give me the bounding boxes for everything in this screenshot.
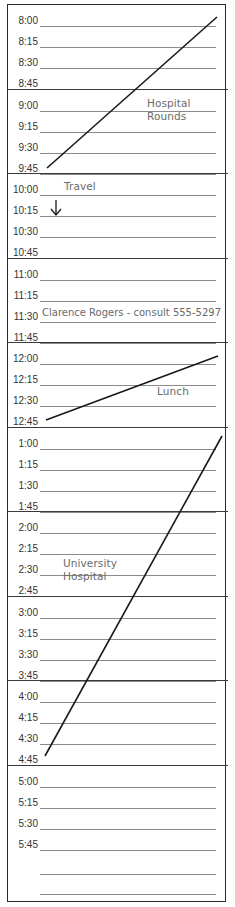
time-slot-label: 9:30 [4,142,38,154]
hour-divider [7,89,228,90]
time-slot-line[interactable] [40,850,216,851]
time-slot-line[interactable] [40,618,216,619]
time-slot-line[interactable] [40,47,216,48]
time-slot-line[interactable] [40,787,216,788]
time-slot-label: 10:30 [4,226,38,238]
hour-divider [7,765,228,766]
entry-university-hospital-line1[interactable]: University [63,557,117,569]
time-slot-label: 4:30 [4,733,38,745]
time-slot-line[interactable] [40,132,216,133]
time-slot-label: 2:30 [4,564,38,576]
time-slot-line[interactable] [40,26,216,27]
time-slot-label: 10:15 [4,205,38,217]
time-slot-line[interactable] [40,153,216,154]
entry-university-hospital-line2[interactable]: Hospital [63,570,107,582]
time-slot-line[interactable] [40,301,216,302]
entry-hospital-rounds-line2[interactable]: Rounds [147,110,186,122]
time-slot-line[interactable] [40,406,216,407]
time-slot-line[interactable] [40,660,216,661]
time-slot-line[interactable] [40,322,216,323]
time-slot-label: 8:30 [4,57,38,69]
hour-divider [7,511,228,512]
time-slot-label: 12:00 [4,353,38,365]
time-slot-label: 8:00 [4,15,38,27]
time-slot-label: 5:15 [4,797,38,809]
time-slot-label: 12:15 [4,374,38,386]
entry-lunch[interactable]: Lunch [157,385,189,397]
time-slot-line[interactable] [40,385,216,386]
entry-travel[interactable]: Travel [64,180,96,192]
time-slot-line[interactable] [40,237,216,238]
time-slot-line[interactable] [40,554,216,555]
time-slot-label: 9:15 [4,121,38,133]
blank-note-line[interactable] [40,874,216,875]
time-slot-line[interactable] [40,195,216,196]
time-slot-line[interactable] [40,216,216,217]
time-slot-line[interactable] [40,829,216,830]
time-slot-label: 2:00 [4,522,38,534]
entry-hospital-rounds-line1[interactable]: Hospital [147,97,191,109]
time-slot-line[interactable] [40,723,216,724]
time-slot-label: 8:15 [4,36,38,48]
time-slot-line[interactable] [40,744,216,745]
time-slot-line[interactable] [40,702,216,703]
time-slot-label: 5:30 [4,818,38,830]
time-slot-line[interactable] [40,364,216,365]
hour-divider [7,680,228,681]
time-slot-line[interactable] [40,808,216,809]
hour-divider [7,173,228,174]
time-slot-line[interactable] [40,533,216,534]
time-slot-label: 3:15 [4,628,38,640]
time-slot-label: 9:00 [4,100,38,112]
hour-divider [7,427,228,428]
day-planner-sheet [7,4,226,902]
time-slot-label: 12:30 [4,395,38,407]
time-slot-line[interactable] [40,639,216,640]
time-slot-label: 5:45 [4,839,38,851]
time-slot-label: 11:00 [4,269,38,281]
time-slot-label: 11:30 [4,311,38,323]
hour-divider [7,258,228,259]
hour-divider [7,342,228,343]
time-slot-line[interactable] [40,68,216,69]
time-slot-line[interactable] [40,111,216,112]
time-slot-label: 2:15 [4,543,38,555]
time-slot-label: 1:15 [4,459,38,471]
time-slot-label: 10:00 [4,184,38,196]
time-slot-label: 1:00 [4,438,38,450]
time-slot-line[interactable] [40,280,216,281]
time-slot-label: 5:00 [4,776,38,788]
time-slot-label: 4:00 [4,691,38,703]
time-slot-label: 3:00 [4,607,38,619]
time-slot-line[interactable] [40,470,216,471]
time-slot-label: 3:30 [4,649,38,661]
entry-consult[interactable]: Clarence Rogers - consult 555-5297 [42,307,221,319]
hour-divider [7,596,228,597]
time-slot-line[interactable] [40,449,216,450]
time-slot-label: 11:15 [4,290,38,302]
time-slot-label: 1:30 [4,480,38,492]
time-slot-label: 4:15 [4,712,38,724]
time-slot-line[interactable] [40,491,216,492]
blank-note-line[interactable] [40,894,216,895]
